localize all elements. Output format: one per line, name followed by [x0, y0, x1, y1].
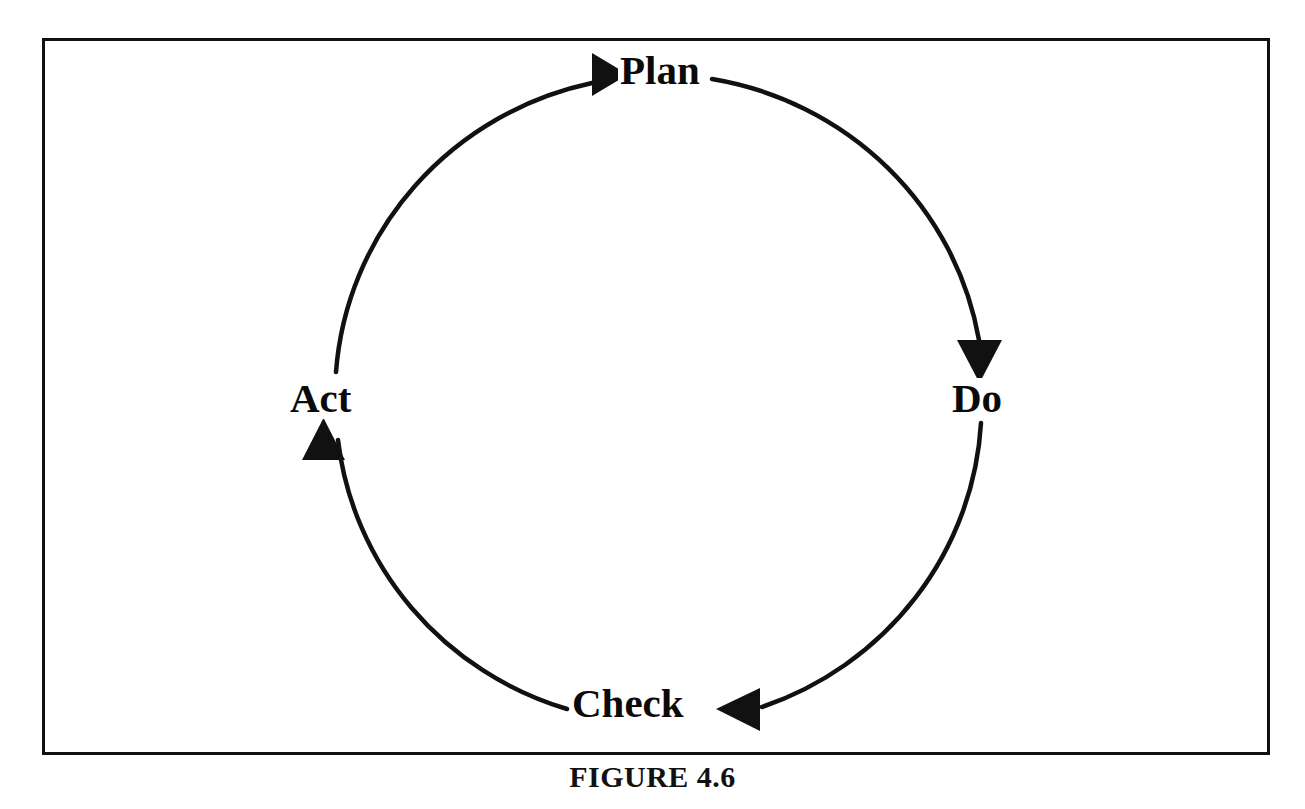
cycle-node-do: Do: [950, 378, 1004, 419]
figure-frame-border: [42, 38, 1270, 755]
figure-container: Plan Do Check Act FIGURE 4.6: [0, 0, 1305, 809]
cycle-node-check: Check: [570, 683, 686, 724]
cycle-node-act: Act: [288, 378, 353, 419]
cycle-node-plan: Plan: [618, 50, 702, 91]
figure-caption: FIGURE 4.6: [0, 760, 1305, 794]
